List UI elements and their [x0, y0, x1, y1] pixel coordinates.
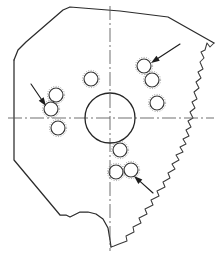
hole-1: [47, 86, 64, 103]
hole-7: [148, 94, 165, 111]
leader-arrow-lower: [134, 176, 153, 193]
hole-10: [122, 161, 139, 178]
hole-3: [49, 119, 66, 136]
hole-group: [42, 57, 165, 180]
leader-arrow-left: [31, 84, 46, 106]
hole-4: [82, 70, 99, 87]
hole-6: [143, 71, 160, 88]
component-outline-bottom-left: [14, 60, 111, 247]
hole-5: [135, 57, 152, 74]
hole-8: [111, 141, 128, 158]
leader-arrow-upper-right: [151, 44, 180, 63]
fracture-edge-right: [111, 43, 214, 247]
technical-drawing: [0, 0, 222, 257]
component-outline-machined: [14, 7, 214, 60]
figure-canvas: [0, 0, 222, 257]
